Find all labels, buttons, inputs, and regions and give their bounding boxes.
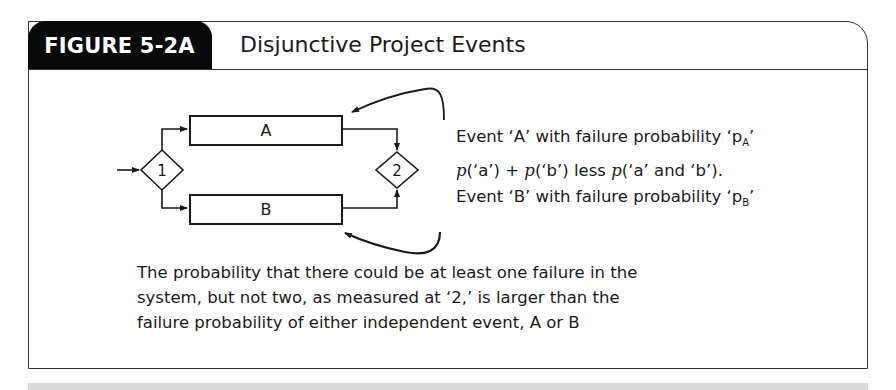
event-a-subscript: A bbox=[742, 137, 749, 148]
figure-caption: The probability that there could be at l… bbox=[137, 260, 697, 335]
edge-1-to-b bbox=[162, 190, 187, 208]
caption-line-1: The probability that there could be at l… bbox=[137, 260, 697, 285]
decision-label-2: 2 bbox=[392, 162, 402, 180]
edge-b-to-2 bbox=[342, 190, 397, 208]
caption-line-2: system, but not two, as measured at ‘2,’… bbox=[137, 285, 697, 310]
formula-term-b: (‘b’) less bbox=[535, 161, 611, 180]
formula-p1: p bbox=[456, 161, 467, 180]
event-a-text: Event ‘A’ with failure probability ‘p bbox=[456, 127, 742, 146]
bottom-divider-band bbox=[28, 383, 868, 390]
formula-term-a: (‘a’) + bbox=[467, 161, 525, 180]
probability-formula: p(‘a’) + p(‘b’) less p(‘a’ and ‘b’). bbox=[456, 161, 723, 180]
event-a-close-quote: ’ bbox=[749, 127, 754, 146]
formula-p2: p bbox=[524, 161, 535, 180]
event-b-annotation: Event ‘B’ with failure probability ‘pB’ bbox=[456, 187, 754, 208]
activity-label-b: B bbox=[261, 200, 272, 219]
formula-p3: p bbox=[611, 161, 622, 180]
pointer-arrow-a bbox=[352, 88, 444, 120]
event-a-annotation: Event ‘A’ with failure probability ‘pA’ bbox=[456, 127, 754, 148]
pointer-arrow-b bbox=[345, 232, 440, 253]
event-b-text: Event ‘B’ with failure probability ‘p bbox=[456, 187, 742, 206]
edge-a-to-2 bbox=[342, 129, 397, 150]
formula-term-ab: (‘a’ and ‘b’). bbox=[622, 161, 723, 180]
edge-1-to-a bbox=[162, 129, 187, 150]
decision-label-1: 1 bbox=[157, 162, 167, 180]
activity-label-a: A bbox=[261, 121, 272, 140]
event-b-close-quote: ’ bbox=[749, 187, 754, 206]
caption-line-3: failure probability of either independen… bbox=[137, 310, 697, 335]
